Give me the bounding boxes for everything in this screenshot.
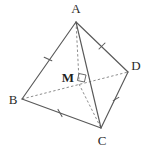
edge-BC <box>22 99 101 128</box>
vertex-label-M: M <box>62 70 74 85</box>
tick-mark-AD <box>99 43 105 49</box>
vertex-label-D: D <box>131 58 140 73</box>
vertex-label-B: B <box>9 92 18 107</box>
tick-marks <box>44 43 119 117</box>
visible-edges <box>22 22 128 128</box>
vertex-label-A: A <box>71 1 81 16</box>
edge-AC <box>76 22 101 128</box>
vertex-label-C: C <box>98 133 107 148</box>
hidden-edges <box>22 22 128 128</box>
edge-AD <box>76 22 128 72</box>
geometry-figure: A B C D M <box>0 0 146 149</box>
tetrahedron-diagram: A B C D M <box>0 0 146 149</box>
